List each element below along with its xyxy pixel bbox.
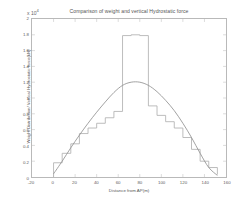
x-axis-label: Distance from AP(m) [31,188,227,193]
x-tick-label: -20 [20,180,42,185]
x-tick-label: 100 [151,180,173,185]
y-axis-exponent-power: 4 [36,8,38,13]
series-line [54,35,218,177]
x-tick-label: 40 [85,180,107,185]
plot-area [31,18,227,178]
x-tick-label: 120 [172,180,194,185]
x-tick-label: 160 [216,180,238,185]
y-axis-exponent: x 104 [27,8,39,16]
axis-ticks [32,19,226,177]
chart-title: Comparison of weight and vertical Hydros… [31,8,227,14]
x-tick-label: 80 [129,180,151,185]
series-line [54,82,218,176]
x-tick-label: 0 [42,180,64,185]
x-tick-label: 140 [194,180,216,185]
plot-svg [32,19,226,177]
x-tick-label: 60 [107,180,129,185]
y-axis-label: Weight Distribution/ Vertical Hydrostati… [26,17,31,177]
chart-figure: Comparison of weight and vertical Hydros… [0,0,242,201]
x-tick-label: 20 [64,180,86,185]
